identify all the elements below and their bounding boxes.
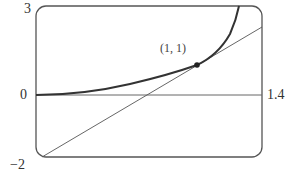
y-tick-top: 3 xyxy=(24,2,31,16)
point-label: (1, 1) xyxy=(160,42,186,54)
y-tick-bottom: −2 xyxy=(10,158,25,172)
plot-frame xyxy=(36,6,262,157)
y-tick-zero: 0 xyxy=(20,88,27,102)
tangent-line xyxy=(42,27,262,157)
x-tick-right: 1.4 xyxy=(267,88,285,102)
curve xyxy=(36,6,239,95)
tangent-point-marker xyxy=(194,62,200,68)
plot-area xyxy=(0,0,292,176)
